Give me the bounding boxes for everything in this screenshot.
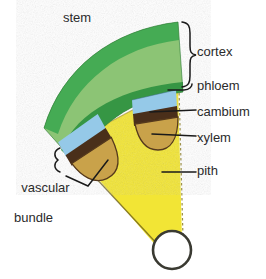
- label-xylem: xylem: [197, 130, 231, 145]
- cortex-bracket: [182, 22, 196, 87]
- label-phloem: phloem: [197, 78, 240, 93]
- label-pith: pith: [197, 163, 218, 178]
- apex-circle: [153, 231, 191, 269]
- label-vascular-bundle: vascular bundle: [14, 165, 70, 240]
- label-vascular-bundle-line1: vascular: [21, 180, 69, 195]
- label-cortex: cortex: [197, 44, 232, 59]
- label-stem: stem: [63, 10, 91, 25]
- label-vascular-bundle-line2: bundle: [14, 210, 70, 225]
- label-cambium: cambium: [197, 104, 250, 119]
